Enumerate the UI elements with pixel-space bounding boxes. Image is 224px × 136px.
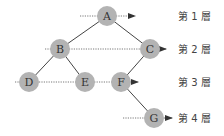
level-4-label: 第 4 層 (178, 112, 211, 124)
level-1-label: 第 1 層 (178, 10, 211, 22)
node-label: B (56, 43, 64, 56)
node-label: E (81, 76, 89, 89)
node-d: D (19, 72, 39, 92)
node-label: F (117, 76, 125, 89)
level-traversal-lines (15, 16, 172, 118)
level-3-label: 第 3 層 (178, 76, 211, 88)
node-label: G (150, 112, 159, 125)
node-label: A (102, 10, 112, 23)
tree-diagram: ABCDEFG 第 1 層第 2 層第 3 層第 4 層 (0, 0, 224, 136)
tree-diagram-svg: ABCDEFG 第 1 層第 2 層第 3 層第 4 層 (0, 0, 224, 136)
node-b: B (50, 39, 70, 59)
level-labels: 第 1 層第 2 層第 3 層第 4 層 (178, 10, 211, 124)
node-c: C (140, 39, 160, 59)
node-label: C (146, 43, 154, 56)
node-label: D (25, 76, 34, 89)
tree-nodes: ABCDEFG (19, 6, 164, 128)
tree-edges (29, 16, 154, 118)
node-g: G (144, 108, 164, 128)
node-e: E (75, 72, 95, 92)
node-a: A (97, 6, 117, 26)
node-f: F (111, 72, 131, 92)
level-2-label: 第 2 層 (178, 43, 211, 55)
